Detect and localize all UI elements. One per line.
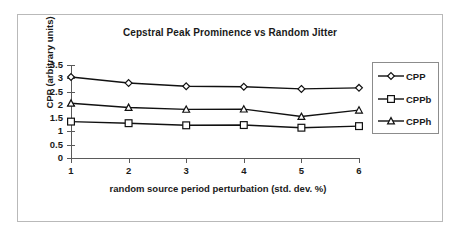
series-CPPb: [68, 118, 363, 131]
series-CPP: [68, 74, 363, 93]
diamond-marker: [388, 73, 395, 80]
square-marker: [388, 96, 395, 103]
diamond-marker: [240, 83, 247, 90]
legend-item-CPP[interactable]: CPP: [377, 69, 426, 83]
legend-sample-CPPh: [377, 114, 405, 128]
triangle-marker: [356, 107, 363, 113]
square-marker: [298, 124, 305, 131]
series-CPPh: [68, 100, 363, 120]
legend-sample-CPP: [377, 69, 405, 83]
legend-item-CPPb[interactable]: CPPb: [377, 92, 431, 106]
series-line-CPPb: [71, 122, 359, 128]
legend-sample-CPPb: [377, 92, 405, 106]
series-line-CPPh: [71, 103, 359, 116]
legend-label-CPPb: CPPb: [406, 94, 431, 105]
diamond-marker: [68, 74, 75, 81]
square-marker: [68, 118, 75, 125]
diamond-marker: [298, 86, 305, 93]
legend-label-CPPh: CPPh: [406, 116, 431, 127]
legend-label-CPP: CPP: [406, 71, 426, 82]
chart-frame: Cepstral Peak Prominence vs Random Jitte…: [17, 14, 443, 222]
triangle-marker: [388, 118, 395, 124]
legend: CPPCPPbCPPh: [372, 62, 439, 134]
square-marker: [356, 123, 363, 130]
triangle-marker: [68, 100, 75, 106]
square-marker: [183, 122, 190, 129]
triangle-marker: [125, 104, 132, 110]
square-marker: [240, 122, 247, 129]
legend-item-CPPh[interactable]: CPPh: [377, 114, 431, 128]
series-line-CPP: [71, 77, 359, 89]
triangle-marker: [240, 106, 247, 112]
diamond-marker: [183, 83, 190, 90]
diamond-marker: [125, 80, 132, 87]
diamond-marker: [356, 84, 363, 91]
triangle-marker: [183, 106, 190, 112]
square-marker: [125, 120, 132, 127]
triangle-marker: [298, 113, 305, 119]
